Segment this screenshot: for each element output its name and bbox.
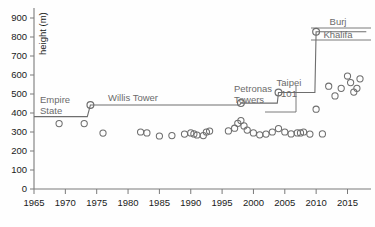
- annotation-petronas-line2: Towers: [234, 94, 264, 105]
- scatter-points-group: [56, 73, 363, 139]
- scatter-point: [244, 127, 250, 133]
- chart-container: 0100200300400500600700800900 19651970197…: [0, 0, 375, 227]
- scatter-point: [181, 131, 187, 137]
- y-tick-label: 500: [11, 88, 27, 99]
- x-tick-label: 2005: [274, 197, 295, 208]
- scatter-point: [269, 129, 275, 135]
- y-tick-label: 800: [11, 31, 27, 42]
- scatter-point: [319, 131, 325, 137]
- x-tick-label: 2010: [306, 197, 327, 208]
- x-tick-label: 1980: [117, 197, 138, 208]
- annotation-petronas-line1: Petronas: [234, 83, 272, 94]
- y-tick-label: 300: [11, 126, 27, 137]
- x-tick-label: 1995: [212, 197, 233, 208]
- x-tick-label: 1965: [23, 197, 44, 208]
- scatter-point: [313, 106, 319, 112]
- y-tick-label: 900: [11, 12, 27, 23]
- annotation-taipei-line2: 101: [281, 88, 297, 99]
- scatter-point: [169, 133, 175, 139]
- annotation-willis-tower: Willis Tower: [108, 92, 158, 103]
- x-tick-label: 1970: [55, 197, 76, 208]
- scatter-point: [357, 76, 363, 82]
- annotation-burj-line1: Burj: [330, 16, 347, 27]
- x-tick-label: 1990: [180, 197, 201, 208]
- scatter-point: [275, 126, 281, 132]
- scatter-point: [81, 121, 87, 127]
- annotation-taipei-line1: Taipei: [277, 77, 302, 88]
- scatter-point: [326, 83, 332, 89]
- scatter-point: [307, 131, 313, 137]
- x-tick-label: 1985: [149, 197, 170, 208]
- scatter-point: [332, 93, 338, 99]
- scatter-point: [241, 123, 247, 129]
- scatter-point: [348, 80, 354, 86]
- annotation-empire-state-line2: State: [40, 105, 62, 116]
- annotation-burj-line2: Khalifa: [323, 29, 353, 40]
- axes-group: [34, 8, 371, 189]
- y-axis-title: height (m): [37, 12, 48, 55]
- scatter-point: [250, 130, 256, 136]
- x-tick-label: 2000: [243, 197, 264, 208]
- y-axis-ticks: 0100200300400500600700800900: [11, 12, 34, 194]
- scatter-point: [225, 128, 231, 134]
- y-tick-label: 100: [11, 164, 27, 175]
- scatter-point: [257, 132, 263, 138]
- y-tick-label: 400: [11, 107, 27, 118]
- y-tick-label: 700: [11, 50, 27, 61]
- scatter-point: [338, 85, 344, 91]
- scatter-point: [288, 131, 294, 137]
- scatter-point: [282, 129, 288, 135]
- scatter-point: [56, 121, 62, 127]
- scatter-point: [344, 73, 350, 79]
- x-tick-label: 1975: [86, 197, 107, 208]
- scatter-point: [100, 130, 106, 136]
- scatter-point: [263, 131, 269, 137]
- x-axis-ticks: 1965197019751980198519901995200020052010…: [23, 189, 358, 208]
- skyscraper-height-scatter-chart: 0100200300400500600700800900 19651970197…: [0, 0, 375, 227]
- record-height-step-line: [34, 32, 366, 117]
- y-tick-label: 200: [11, 145, 27, 156]
- annotation-leaders: [265, 28, 371, 112]
- annotation-labels: Empire State Willis Tower Petronas Tower…: [40, 16, 353, 116]
- y-tick-label: 0: [22, 183, 27, 194]
- y-tick-label: 600: [11, 69, 27, 80]
- scatter-point: [138, 129, 144, 135]
- scatter-point: [144, 130, 150, 136]
- scatter-point: [156, 133, 162, 139]
- annotation-empire-state-line1: Empire: [40, 94, 70, 105]
- x-tick-label: 2015: [337, 197, 358, 208]
